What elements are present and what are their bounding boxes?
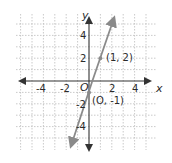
y-tick-neg4: -4 (76, 122, 86, 132)
coordinate-plane: y x O -4 -2 2 4 4 2 -2 -4 (1, 2) (O, -1) (0, 0, 172, 163)
x-tick-neg4: -4 (36, 84, 46, 94)
y-tick-2: 2 (80, 54, 86, 64)
x-tick-4: 4 (132, 84, 138, 94)
point-label-1-2: (1, 2) (106, 53, 133, 63)
y-tick-4: 4 (80, 31, 86, 41)
x-axis-label: x (156, 83, 163, 94)
x-tick-neg2: -2 (60, 84, 70, 94)
point-1-2 (98, 56, 102, 60)
x-tick-2: 2 (109, 84, 115, 94)
point-label-0-neg1: (O, -1) (92, 96, 124, 106)
y-axis-label: y (82, 10, 89, 21)
y-tick-neg2: -2 (76, 100, 86, 110)
origin-label: O (80, 82, 89, 93)
